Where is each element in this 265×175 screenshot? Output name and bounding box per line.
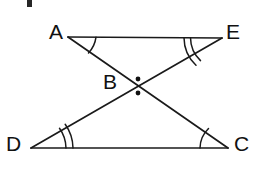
segment-AC xyxy=(68,37,228,148)
segment-group xyxy=(31,37,228,148)
vertex-label-D: D xyxy=(6,133,21,154)
vertex-label-E: E xyxy=(226,21,240,42)
segment-DE xyxy=(31,38,222,148)
angle-arc-A-1 xyxy=(89,37,97,53)
vertex-label-C: C xyxy=(234,133,249,154)
segment-AE xyxy=(68,37,222,38)
edge-scan-artifact xyxy=(27,0,32,7)
geometry-figure: A E B D C xyxy=(0,0,265,175)
dot-below-B xyxy=(136,91,141,96)
dot-above-B xyxy=(136,77,141,82)
angle-mark-A xyxy=(89,37,97,53)
vertex-label-A: A xyxy=(49,21,63,42)
angle-arc-E-1 xyxy=(191,38,201,61)
vertex-label-B: B xyxy=(103,71,117,92)
